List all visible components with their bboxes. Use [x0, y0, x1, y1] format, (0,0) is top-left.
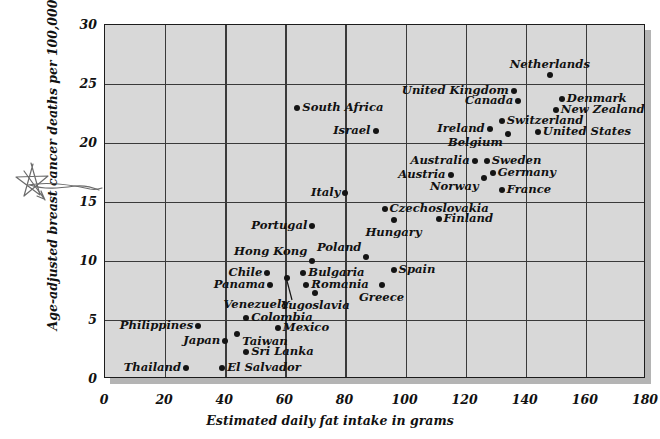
data-point: [553, 107, 559, 113]
data-point: [484, 158, 490, 164]
gridline-horizontal: [105, 84, 644, 85]
data-point: [436, 216, 442, 222]
data-point-label: Thailand: [124, 363, 181, 375]
data-point-label: Canada: [465, 95, 513, 107]
x-tick-label: 140: [505, 392, 545, 407]
data-point: [309, 223, 315, 229]
x-tick-label: 80: [324, 392, 364, 407]
data-point: [379, 282, 385, 288]
data-point-label: Panama: [214, 279, 266, 291]
data-point: [535, 129, 541, 135]
data-point-label: Hungary: [365, 227, 421, 239]
x-axis-title: Estimated daily fat intake in grams: [0, 413, 660, 428]
x-tick-label: 100: [385, 392, 425, 407]
gridline-vertical: [345, 25, 346, 377]
data-point: [481, 175, 487, 181]
data-point-label: Ireland: [437, 123, 484, 135]
data-point: [547, 72, 553, 78]
data-point: [511, 88, 517, 94]
data-point: [267, 282, 273, 288]
data-point: [515, 98, 521, 104]
data-point: [312, 290, 318, 296]
data-point: [505, 131, 511, 137]
plot-area: NetherlandsDenmarkNew ZealandUnited King…: [104, 24, 645, 378]
data-point-label: Italy: [311, 187, 340, 199]
data-point-label: Spain: [399, 265, 436, 277]
gridline-vertical: [586, 25, 587, 377]
data-point-label: Sri Lanka: [251, 346, 314, 358]
data-point: [391, 267, 397, 273]
data-point-label: El Salvador: [227, 363, 301, 375]
data-point-label: Greece: [359, 292, 404, 304]
data-point: [309, 258, 315, 264]
data-point: [303, 282, 309, 288]
data-point: [363, 254, 369, 260]
data-point: [448, 172, 454, 178]
x-tick-label: 180: [625, 392, 660, 407]
data-point: [275, 325, 281, 331]
data-point: [234, 331, 240, 337]
y-tick-label: 5: [57, 312, 97, 327]
data-point: [382, 206, 388, 212]
data-point-label: Norway: [430, 182, 479, 194]
y-tick-label: 10: [57, 253, 97, 268]
data-point: [342, 190, 348, 196]
data-point: [472, 158, 478, 164]
data-point: [499, 118, 505, 124]
data-point: [490, 170, 496, 176]
gridline-vertical: [526, 25, 527, 377]
data-point-label: Portugal: [251, 220, 307, 232]
data-point-label: Germany: [498, 167, 556, 179]
data-point-label: France: [507, 184, 552, 196]
y-tick-label: 0: [57, 371, 97, 386]
gridline-horizontal: [105, 202, 644, 203]
data-point: [499, 187, 505, 193]
gridline-horizontal: [105, 261, 644, 262]
data-point-label: Netherlands: [510, 59, 590, 71]
data-point-label: Australia: [410, 155, 469, 167]
y-tick-label: 25: [57, 76, 97, 91]
y-axis-title: Age-adjusted breast cancer deaths per 10…: [45, 41, 60, 331]
data-point-label: Hong Kong: [234, 246, 307, 258]
y-tick-label: 15: [57, 194, 97, 209]
data-point-label: Venezuela: [223, 299, 288, 311]
x-tick-label: 0: [84, 392, 124, 407]
data-point: [183, 365, 189, 371]
data-point-label: Mexico: [283, 322, 329, 334]
data-point: [391, 217, 397, 223]
data-point-label: Finland: [444, 213, 494, 225]
y-tick-label: 30: [57, 17, 97, 32]
data-point-label: South Africa: [302, 102, 383, 114]
data-point: [264, 270, 270, 276]
data-point: [222, 338, 228, 344]
x-tick-label: 60: [264, 392, 304, 407]
scatter-plot-figure: NetherlandsDenmarkNew ZealandUnited King…: [0, 0, 660, 439]
data-point: [243, 315, 249, 321]
gridline-horizontal: [105, 143, 644, 144]
data-point-label: Israel: [333, 125, 370, 137]
x-tick-label: 20: [144, 392, 184, 407]
data-point: [294, 105, 300, 111]
x-tick-label: 160: [565, 392, 605, 407]
data-point-label: Poland: [317, 243, 362, 255]
data-point: [373, 128, 379, 134]
gridline-vertical: [225, 25, 226, 377]
data-point-label: Japan: [183, 335, 220, 347]
data-point: [487, 126, 493, 132]
data-point-label: United States: [543, 127, 631, 139]
y-tick-label: 20: [57, 135, 97, 150]
data-point: [195, 323, 201, 329]
data-point: [300, 270, 306, 276]
data-point-label: Philippines: [120, 320, 193, 332]
x-tick-label: 40: [204, 392, 244, 407]
data-point: [284, 275, 290, 281]
data-point: [243, 349, 249, 355]
x-tick-label: 120: [445, 392, 485, 407]
data-point-label: Belgium: [448, 137, 503, 149]
